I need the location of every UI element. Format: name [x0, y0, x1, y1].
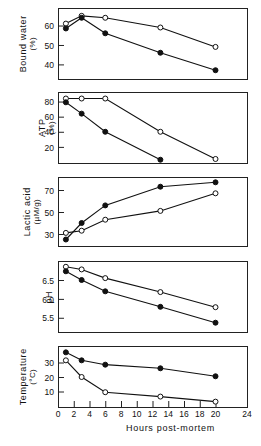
series-line-filled	[66, 352, 216, 376]
data-point-filled-circle	[63, 26, 68, 31]
axes-frame	[59, 9, 248, 80]
y-tick-label: 5.5	[42, 313, 54, 323]
data-point-open-circle	[103, 217, 108, 222]
y-tick-label: 20	[45, 143, 55, 153]
series-line-filled	[66, 18, 216, 70]
y-tick-label: 6.0	[42, 295, 54, 305]
axes-frame	[59, 262, 248, 333]
data-point-filled-circle	[103, 129, 108, 134]
data-point-open-circle	[63, 358, 68, 363]
data-point-filled-circle	[103, 31, 108, 36]
figure-stacked-line-charts: Bound water(%)405060ATP(%)20406080Lactic…	[0, 0, 261, 446]
data-point-open-circle	[213, 44, 218, 49]
plot-area: 405060	[0, 8, 261, 80]
data-point-open-circle	[213, 156, 218, 161]
data-point-filled-circle	[213, 374, 218, 379]
data-point-open-circle	[79, 267, 84, 272]
x-tick-label: 24	[237, 409, 257, 419]
data-point-open-circle	[158, 290, 163, 295]
data-point-filled-circle	[158, 157, 163, 162]
data-point-filled-circle	[158, 304, 163, 309]
plot-area: 5.56.06.5	[0, 261, 261, 333]
chart-panel-3: Lactic acid(µM/g)305070	[0, 177, 261, 247]
data-point-filled-circle	[158, 50, 163, 55]
axes-frame	[59, 347, 248, 408]
chart-panel-5: Temperature(°C)102030	[0, 346, 261, 408]
data-point-open-circle	[213, 191, 218, 196]
y-tick-label: 6.5	[42, 276, 54, 286]
series-line-filled	[66, 271, 216, 322]
data-point-open-circle	[213, 399, 218, 404]
data-point-filled-circle	[158, 366, 163, 371]
data-point-filled-circle	[63, 350, 68, 355]
data-point-open-circle	[63, 21, 68, 26]
y-tick-label: 60	[45, 21, 55, 31]
y-tick-label: 70	[45, 186, 55, 196]
data-point-filled-circle	[79, 358, 84, 363]
y-tick-label: 50	[45, 41, 55, 51]
data-point-filled-circle	[79, 221, 84, 226]
data-point-open-circle	[103, 276, 108, 281]
data-point-open-circle	[158, 129, 163, 134]
data-point-open-circle	[158, 208, 163, 213]
data-point-open-circle	[103, 390, 108, 395]
data-point-filled-circle	[63, 237, 68, 242]
data-point-filled-circle	[63, 269, 68, 274]
y-tick-label: 50	[45, 208, 55, 218]
series-line-filled	[66, 102, 161, 159]
data-point-open-circle	[63, 230, 68, 235]
chart-panel-2: ATP(%)20406080	[0, 92, 261, 164]
data-point-open-circle	[79, 228, 84, 233]
plot-area: 20406080	[0, 92, 261, 164]
series-line-filled	[66, 182, 216, 239]
plot-area: 305070	[0, 177, 261, 247]
y-tick-label: 80	[45, 97, 55, 107]
y-tick-label: 10	[45, 387, 55, 397]
y-tick-label: 40	[45, 60, 55, 70]
data-point-filled-circle	[213, 180, 218, 185]
x-axis-title: Hours post-mortem	[0, 423, 261, 433]
data-point-open-circle	[79, 375, 84, 380]
y-tick-label: 20	[45, 373, 55, 383]
data-point-open-circle	[158, 394, 163, 399]
data-point-filled-circle	[103, 203, 108, 208]
data-point-open-circle	[79, 96, 84, 101]
data-point-filled-circle	[103, 289, 108, 294]
data-point-filled-circle	[158, 184, 163, 189]
data-point-filled-circle	[79, 278, 84, 283]
data-point-filled-circle	[213, 68, 218, 73]
x-tick-label-row: 0246810121416182024	[0, 409, 261, 421]
data-point-filled-circle	[79, 15, 84, 20]
plot-area: 102030	[0, 346, 261, 408]
y-tick-label: 40	[45, 127, 55, 137]
chart-panel-4: pH5.56.06.5	[0, 261, 261, 333]
chart-panel-1: Bound water(%)405060	[0, 8, 261, 80]
x-tick-label: 20	[206, 409, 226, 419]
y-tick-label: 30	[45, 358, 55, 368]
series-line-open	[66, 193, 216, 233]
series-line-open	[66, 16, 216, 47]
data-point-open-circle	[213, 305, 218, 310]
axes-frame	[59, 93, 248, 164]
y-tick-label: 30	[45, 230, 55, 240]
data-point-open-circle	[103, 96, 108, 101]
data-point-filled-circle	[213, 320, 218, 325]
data-point-open-circle	[103, 15, 108, 20]
data-point-filled-circle	[79, 111, 84, 116]
data-point-filled-circle	[103, 362, 108, 367]
y-tick-label: 60	[45, 112, 55, 122]
data-point-open-circle	[158, 25, 163, 30]
data-point-filled-circle	[63, 100, 68, 105]
